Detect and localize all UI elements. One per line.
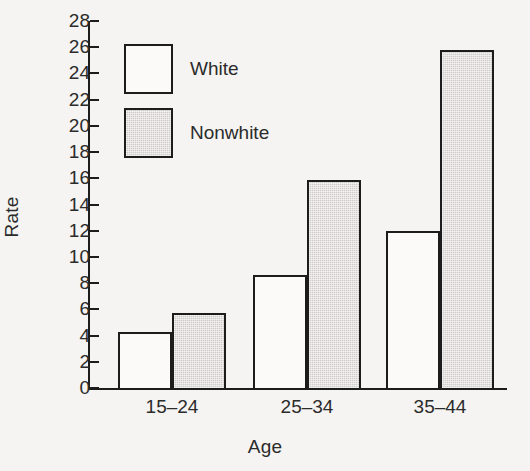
y-tick-label: 16 — [38, 168, 90, 187]
y-tick-mark — [90, 151, 99, 153]
y-tick-mark — [90, 335, 99, 337]
y-tick-mark — [90, 177, 99, 179]
y-tick-mark — [90, 308, 99, 310]
y-tick-mark — [90, 230, 99, 232]
x-category-label: 25–34 — [281, 396, 334, 418]
bar-nonwhite-35-44 — [440, 50, 494, 390]
bar-white-15-24 — [118, 332, 172, 390]
y-tick-mark — [90, 125, 99, 127]
y-tick-label: 14 — [38, 195, 90, 214]
bar-white-35-44 — [386, 231, 440, 390]
y-tick-label: 0 — [38, 378, 90, 397]
y-tick-mark — [90, 20, 99, 22]
bar-white-25-34 — [253, 275, 307, 390]
y-tick-label: 12 — [38, 221, 90, 240]
legend-label-nonwhite: Nonwhite — [190, 122, 269, 144]
y-tick-label: 26 — [38, 37, 90, 56]
x-category-label: 35–44 — [414, 396, 467, 418]
bar-nonwhite-25-34 — [307, 180, 361, 390]
y-tick-label: 8 — [38, 273, 90, 292]
legend-swatch-nonwhite — [124, 108, 173, 158]
y-tick-mark — [90, 72, 99, 74]
bar-nonwhite-15-24 — [172, 313, 226, 390]
y-tick-label: 2 — [38, 352, 90, 371]
y-tick-mark — [90, 387, 99, 389]
legend-swatch-white — [124, 44, 173, 94]
y-tick-label: 22 — [38, 90, 90, 109]
y-tick-label: 24 — [38, 63, 90, 82]
y-tick-label: 18 — [38, 142, 90, 161]
bar-chart-figure: Rate Age 0246810121416182022242628 15–24… — [0, 0, 530, 471]
y-tick-mark — [90, 361, 99, 363]
y-tick-label: 28 — [38, 11, 90, 30]
plot-area: 0246810121416182022242628 15–2425–3435–4… — [0, 0, 530, 471]
y-tick-mark — [90, 99, 99, 101]
y-tick-mark — [90, 282, 99, 284]
legend-label-white: White — [190, 58, 239, 80]
y-tick-label: 4 — [38, 326, 90, 345]
y-tick-mark — [90, 204, 99, 206]
y-tick-label: 20 — [38, 116, 90, 135]
y-tick-mark — [90, 46, 99, 48]
x-category-label: 15–24 — [146, 396, 199, 418]
y-tick-label: 10 — [38, 247, 90, 266]
y-tick-label: 6 — [38, 299, 90, 318]
y-tick-mark — [90, 256, 99, 258]
